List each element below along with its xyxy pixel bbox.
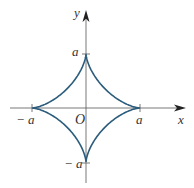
right-label: a: [136, 113, 143, 126]
astroid-plot: [0, 0, 194, 188]
bottom-label: − a: [64, 157, 83, 170]
left-label: − a: [16, 113, 35, 126]
origin-label: O: [75, 113, 85, 127]
y-axis-label: y: [74, 6, 80, 19]
x-axis-label: x: [178, 113, 184, 126]
astroid-diagram: y x O a a − a − a: [0, 0, 194, 188]
top-label: a: [72, 45, 79, 58]
